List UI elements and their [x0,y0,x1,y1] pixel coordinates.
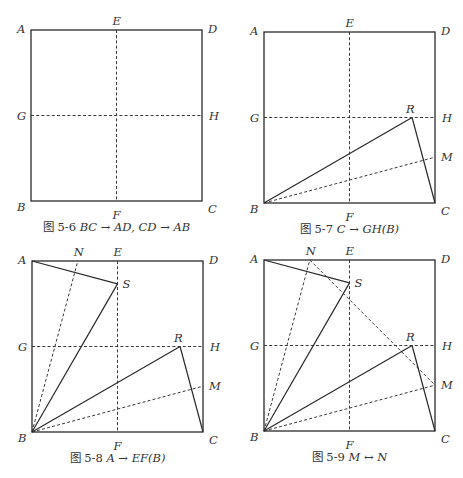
point-label-G: G [250,111,259,125]
point-label-A: A [249,24,258,38]
figure-caption: 图 5-7 C → GH(B) [300,222,399,236]
point-label-A: A [17,253,26,267]
point-label-H: H [441,339,453,353]
point-label-C: C [209,433,218,447]
segment-BR [32,347,180,433]
point-label-C: C [441,432,450,446]
point-label-E: E [345,244,355,258]
segment-SB [264,283,350,431]
segment-AS [264,260,350,283]
figure-5-9: ABCDEFGHRMSN图 5-9 M ↔ N [249,244,454,464]
point-label-B: B [17,431,26,445]
segment-BR [264,118,412,204]
point-label-D: D [207,22,217,36]
point-label-C: C [441,204,450,218]
point-label-E: E [112,14,122,28]
point-label-D: D [208,253,218,267]
point-label-R: R [173,331,183,345]
point-label-B: B [249,202,258,216]
point-label-N: N [305,244,317,258]
point-label-D: D [440,24,450,38]
point-label-S: S [123,277,131,291]
segment-RC [180,347,203,433]
diagram-canvas: ABCDEFGH图 5-6 BC → AD, CD → AB ABCDEFGHR… [0,0,463,478]
point-label-H: H [208,109,220,123]
point-label-A: A [249,252,258,266]
figure-caption: 图 5-6 BC → AD, CD → AB [43,220,190,234]
figure-caption: 图 5-8 A → EF(B) [70,451,166,465]
point-label-E: E [113,245,123,259]
point-label-D: D [440,252,450,266]
segment-RC [412,118,435,204]
figure-5-8: ABCDEFGHRMSN图 5-8 A → EF(B) [17,245,222,465]
point-label-R: R [405,330,415,344]
point-label-M: M [208,379,222,393]
point-label-N: N [73,245,85,259]
point-label-M: M [440,150,454,164]
dashed-line-NM [310,260,435,385]
point-label-S: S [355,276,363,290]
point-label-C: C [208,202,217,216]
point-label-H: H [441,111,453,125]
segment-RC [412,346,435,432]
figure-5-6: ABCDEFGH图 5-6 BC → AD, CD → AB [16,14,220,234]
point-label-B: B [249,430,258,444]
point-label-E: E [345,16,355,30]
segment-SB [32,284,118,432]
point-label-G: G [18,340,27,354]
point-label-R: R [405,102,415,116]
point-label-G: G [17,109,26,123]
figure-5-7: ABCDEFGHRM图 5-7 C → GH(B) [249,16,454,236]
point-label-A: A [16,22,25,36]
figure-caption: 图 5-9 M ↔ N [312,450,389,464]
point-label-B: B [16,200,25,214]
point-label-M: M [440,378,454,392]
segment-BR [264,346,412,432]
point-label-H: H [209,340,221,354]
segment-AS [32,261,118,284]
point-label-G: G [250,339,259,353]
